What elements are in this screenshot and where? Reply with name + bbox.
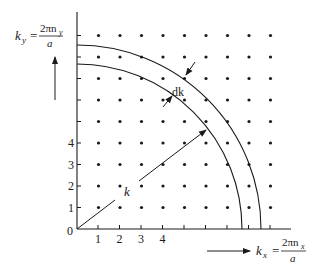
lattice-point — [204, 163, 207, 166]
x-tick-labels: 1 2 3 4 — [95, 232, 166, 246]
lattice-point — [269, 163, 272, 166]
dk-label: dk — [172, 85, 184, 99]
lattice-point — [118, 206, 121, 209]
svg-text:2: 2 — [117, 232, 123, 246]
outer-shell-arc — [77, 45, 261, 229]
svg-text:2πn: 2πn — [282, 236, 299, 248]
lattice-point — [140, 120, 143, 123]
lattice-point — [97, 184, 100, 187]
y-tick-labels: 1 2 3 4 — [68, 136, 74, 215]
lattice-point — [97, 55, 100, 58]
lattice-point — [269, 141, 272, 144]
lattice-point — [226, 184, 229, 187]
lattice-point — [247, 98, 250, 101]
lattice-point — [161, 55, 164, 58]
lattice-point — [204, 120, 207, 123]
lattice-point — [183, 163, 186, 166]
lattice-point — [269, 77, 272, 80]
svg-text:x: x — [262, 250, 267, 260]
inner-shell-arc — [77, 64, 242, 229]
lattice-point — [204, 77, 207, 80]
lattice-point — [118, 34, 121, 37]
svg-text:4: 4 — [160, 232, 166, 246]
lattice-point — [183, 206, 186, 209]
lattice-point — [140, 141, 143, 144]
lattice-point — [269, 55, 272, 58]
lattice-point — [204, 141, 207, 144]
k-space-diagram: k dk 0 1 2 3 4 1 2 3 4 k y = 2πn y a k x… — [0, 0, 312, 270]
svg-text:y: y — [21, 35, 26, 45]
lattice-point — [97, 206, 100, 209]
svg-text:3: 3 — [138, 232, 144, 246]
x-ticks — [98, 225, 270, 229]
svg-text:x: x — [300, 242, 305, 251]
lattice-point — [226, 141, 229, 144]
lattice-point — [161, 98, 164, 101]
lattice-point — [226, 77, 229, 80]
lattice-point — [247, 184, 250, 187]
svg-text:a: a — [47, 37, 53, 49]
lattice-point — [118, 184, 121, 187]
lattice-point — [118, 98, 121, 101]
lattice-point — [247, 77, 250, 80]
lattice-point — [161, 206, 164, 209]
svg-text:4: 4 — [68, 136, 74, 150]
lattice-point — [226, 206, 229, 209]
lattice-point — [161, 77, 164, 80]
svg-text:3: 3 — [68, 158, 74, 172]
lattice-point — [269, 120, 272, 123]
lattice-point — [161, 120, 164, 123]
lattice-point — [118, 55, 121, 58]
lattice-point — [161, 141, 164, 144]
dk-outer-arrow — [186, 62, 195, 75]
svg-text:k: k — [15, 28, 21, 43]
svg-text:1: 1 — [68, 201, 74, 215]
lattice-point — [226, 98, 229, 101]
lattice-point — [118, 120, 121, 123]
lattice-point — [247, 120, 250, 123]
y-axis-label: k y = 2πn y a — [15, 22, 63, 49]
lattice-point — [183, 34, 186, 37]
lattice-point — [161, 34, 164, 37]
lattice-points — [97, 34, 272, 209]
lattice-point — [97, 34, 100, 37]
lattice-point — [118, 141, 121, 144]
lattice-point — [269, 98, 272, 101]
lattice-point — [247, 34, 250, 37]
lattice-point — [269, 184, 272, 187]
lattice-point — [97, 141, 100, 144]
lattice-point — [204, 206, 207, 209]
k-vector-label: k — [124, 184, 130, 199]
lattice-point — [204, 55, 207, 58]
lattice-point — [183, 184, 186, 187]
x-axis-label: k x = 2πn x a — [256, 236, 306, 264]
svg-text:=: = — [272, 243, 279, 258]
lattice-point — [140, 34, 143, 37]
k-vector-arrow — [139, 130, 206, 181]
lattice-point — [118, 163, 121, 166]
k-vector-segment-1 — [77, 200, 115, 229]
lattice-point — [118, 77, 121, 80]
y-ticks — [77, 36, 81, 208]
dk-inner-arrow — [163, 96, 172, 107]
lattice-point — [97, 163, 100, 166]
lattice-point — [247, 206, 250, 209]
lattice-point — [97, 120, 100, 123]
svg-text:a: a — [290, 252, 296, 264]
origin-label: 0 — [67, 224, 73, 238]
lattice-point — [269, 206, 272, 209]
lattice-point — [226, 55, 229, 58]
svg-text:k: k — [256, 243, 262, 258]
lattice-point — [97, 98, 100, 101]
lattice-point — [247, 141, 250, 144]
svg-text:=: = — [30, 28, 37, 43]
lattice-point — [140, 184, 143, 187]
lattice-point — [183, 55, 186, 58]
svg-text:1: 1 — [95, 232, 101, 246]
lattice-point — [204, 184, 207, 187]
lattice-point — [140, 163, 143, 166]
lattice-point — [140, 206, 143, 209]
lattice-point — [183, 141, 186, 144]
lattice-point — [161, 184, 164, 187]
svg-text:2: 2 — [68, 179, 74, 193]
